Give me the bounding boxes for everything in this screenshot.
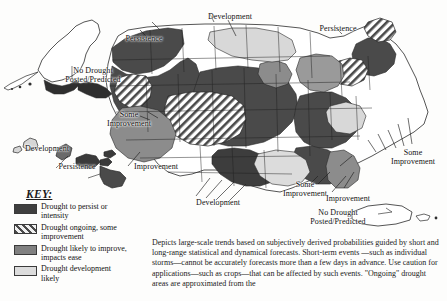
key-label-ongoing: Drought ongoing, some improvement [41,223,117,242]
map-label-development-south: Development [196,198,258,207]
key-entry-persist: Drought to persist or intensity [14,202,154,221]
map-label-some-improvement-southeast: Some Improvement [280,180,330,198]
map-key: KEY: Drought to persist or intensity Dro… [14,188,154,283]
key-title: KEY: [26,188,154,200]
map-label-no-drought-alaska: No Drought Posted/Predicted [56,66,130,84]
map-label-development-hawaii: Development [16,144,78,153]
key-swatch-ongoing [14,224,37,234]
key-entry-improve: Drought likely to improve, impacts ease [14,244,154,263]
key-label-improve: Drought likely to improve, impacts ease [41,244,127,263]
key-entry-development: Drought development likely [14,264,154,283]
map-label-no-drought-puerto-rico: No Drought Posted/Predicted [300,208,376,226]
key-entry-ongoing: Drought ongoing, some improvement [14,223,154,242]
map-label-development-north: Development [200,12,260,21]
map-description: Depicts large-scale trends based on subj… [152,238,442,289]
map-label-some-improvement-california: Some Improvement [104,110,154,128]
map-label-persistence-hawaii: Persistence [48,162,106,171]
drought-outlook-figure: Persistence Development Persistence No D… [0,0,447,301]
map-label-persistence-northeast: Persistence [310,24,366,33]
key-swatch-development [14,266,37,276]
alaska-inset [4,20,112,98]
key-swatch-improve [14,245,37,255]
map-label-improvement-florida: Improvement [326,194,384,203]
map-label-improvement-southwest: Improvement [134,162,198,171]
key-swatch-persist [14,204,37,214]
map-label-persistence-northwest: Persistence [118,34,170,43]
map-label-some-improvement-northeast: Some Improvement [386,148,440,166]
key-label-development: Drought development likely [41,264,111,283]
key-label-persist: Drought to persist or intensity [41,202,107,221]
